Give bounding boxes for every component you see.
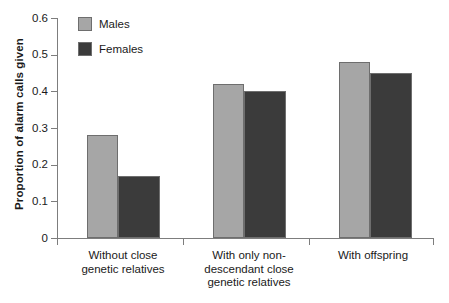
y-tick-label: 0.6 [8,13,48,25]
x-category-line: With offspring [312,249,434,263]
legend-label-males: Males [99,17,130,31]
x-category-line: genetic relatives [60,263,186,277]
x-tick-mark [433,239,434,245]
bar-females-with-offspring [370,73,412,238]
bar-females-without-close-genetic-relatives [118,176,160,238]
bar-males-with-offspring [339,62,370,238]
y-tick-label: 0.1 [8,196,48,208]
x-category-line: genetic relatives [186,276,312,290]
x-tick-mark [183,239,184,245]
x-category-line: With only non- [186,249,312,263]
x-category-label-3: With offspring [312,249,434,263]
x-category-label-1: Without close genetic relatives [60,249,186,276]
y-tick-label: 0.3 [8,123,48,135]
bar-males-with-only-nondescendant-close-genetic-relatives [213,84,244,238]
legend-label-females: Females [99,42,143,56]
x-tick-mark [309,239,310,245]
y-tick-label: 0.5 [8,49,48,61]
legend-swatch-females [78,42,92,56]
y-tick-label: 0.4 [8,86,48,98]
bar-females-with-only-nondescendant-close-genetic-relatives [244,91,286,238]
y-axis-line [57,18,58,239]
x-category-line: descendant close [186,263,312,277]
legend-swatch-males [78,17,92,31]
y-tick-label: 0.2 [8,159,48,171]
y-tick-label: 0 [8,233,48,245]
x-category-line: Without close [60,249,186,263]
x-axis-line [57,238,434,239]
x-category-label-2: With only non- descendant close genetic … [186,249,312,290]
x-tick-mark [57,239,58,245]
bar-chart-figure: Proportion of alarm calls given 0 0.1 0.… [0,0,449,303]
bar-males-without-close-genetic-relatives [87,135,118,238]
